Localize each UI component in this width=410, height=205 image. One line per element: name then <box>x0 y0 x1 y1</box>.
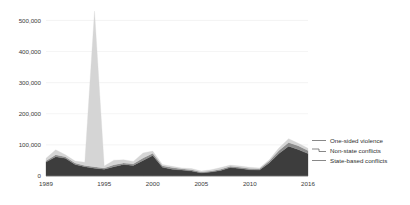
gridlines <box>46 20 308 144</box>
y-tick-label-3: 300,000 <box>19 79 42 86</box>
y-tick-label-2: 200,000 <box>19 110 42 117</box>
y-tick-label-1: 100,000 <box>19 141 42 148</box>
y-axis-tick-labels: 0100,000200,000300,000400,000500,000 <box>19 17 42 180</box>
y-tick-label-5: 500,000 <box>19 17 42 24</box>
legend-label-non-state-conflicts: Non-state conflicts <box>330 147 381 154</box>
y-tick-label-0: 0 <box>38 172 42 179</box>
chart-container: 0100,000200,000300,000400,000500,000 198… <box>0 0 410 205</box>
legend: One-sided violenceNon-state conflictsSta… <box>312 137 387 164</box>
y-tick-label-4: 400,000 <box>19 48 42 55</box>
legend-leader-line-1 <box>312 149 326 152</box>
x-tick-label-2: 2000 <box>146 180 160 187</box>
stacked-area-chart: 0100,000200,000300,000400,000500,000 198… <box>0 0 410 205</box>
x-tick-label-5: 2016 <box>301 180 315 187</box>
x-axis-tick-labels: 198919952000200520102016 <box>39 180 315 187</box>
legend-label-one-sided-violence: One-sided violence <box>330 137 384 144</box>
legend-label-state-based-conflicts: State-based conflicts <box>330 157 387 164</box>
area-series-one-sided-violence <box>46 11 308 172</box>
area-layers <box>46 11 308 176</box>
x-tick-label-0: 1989 <box>39 180 53 187</box>
x-tick-label-3: 2005 <box>194 180 208 187</box>
x-tick-label-4: 2010 <box>243 180 257 187</box>
x-tick-label-1: 1995 <box>97 180 111 187</box>
